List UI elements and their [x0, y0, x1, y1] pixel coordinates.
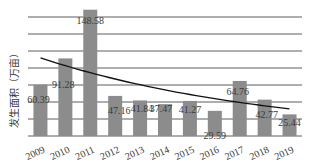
x-tick-label: 2012	[98, 144, 121, 162]
data-label-2015: 41.27	[179, 104, 202, 115]
chart: 60.3991.28148.5847.1641.8437.4741.2729.5…	[0, 0, 315, 166]
bar-2009	[33, 85, 47, 136]
data-label-2016: 29.59	[204, 130, 227, 141]
x-tick-label: 2019	[273, 144, 296, 162]
data-label-2009: 60.39	[27, 94, 50, 105]
data-label-2010: 91.28	[52, 79, 75, 90]
x-tick-label: 2015	[173, 144, 196, 162]
x-tick-label: 2009	[24, 144, 47, 162]
x-tick-label: 2018	[248, 144, 271, 162]
trendline	[41, 58, 290, 109]
data-label-2018: 42.77	[255, 109, 278, 120]
bar-2012	[108, 96, 122, 136]
data-label-2012: 47.16	[108, 105, 131, 116]
x-tick-label: 2014	[148, 144, 171, 162]
bar-2010	[58, 58, 72, 136]
x-tick-label: 2017	[223, 144, 246, 162]
x-tick-label: 2011	[74, 144, 96, 162]
data-label-2011: 148.58	[77, 15, 105, 26]
data-label-2019: 25.44	[278, 117, 301, 128]
data-label-2014: 37.47	[150, 103, 173, 114]
x-tick-label: 2016	[198, 144, 221, 162]
y-axis-label: 发生面积（万亩）	[8, 48, 20, 128]
trendline-group	[41, 58, 290, 109]
data-label-2017: 64.76	[226, 86, 249, 97]
x-tick-label: 2010	[48, 144, 71, 162]
x-tick-label: 2013	[123, 144, 146, 162]
x-tick-labels: 2009201020112012201320142015201620172018…	[24, 144, 296, 162]
